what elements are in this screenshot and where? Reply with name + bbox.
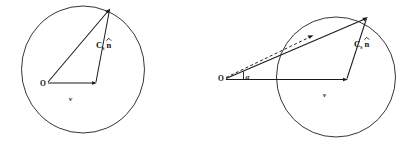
right-origin-label: O [218,74,224,83]
right-dashed-tangent-ray [226,37,311,78]
right-panel: O α v C s n [218,17,396,137]
figure-container: O v C s n [0,0,418,147]
vector-diagram-figure: O v C s n [0,0,418,147]
right-angle-label: α [246,73,250,81]
left-cs-n-label-sub: s [102,45,105,51]
right-ray-arrowhead [362,17,368,21]
left-cs-n-label-n: n [107,40,112,50]
right-cs-n-label-sub: s [360,44,363,50]
right-velocity-label: v [323,91,327,99]
right-ray-vector [226,19,366,79]
right-cs-n-label: C s n [354,37,370,50]
right-dashed-ray-arrowhead [308,35,314,39]
left-velocity-label: v [69,95,73,103]
right-wavefront-circle [277,17,396,137]
left-origin-label: O [40,79,46,88]
left-panel: O v C s n [22,6,145,133]
left-wavefront-circle [22,6,145,133]
right-cs-n-label-n: n [365,39,370,49]
